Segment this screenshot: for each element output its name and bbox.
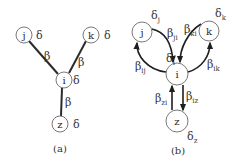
node-j: j <box>16 27 32 43</box>
node-label: i <box>62 75 65 86</box>
node-i: i <box>166 63 188 85</box>
figure-a: j k i z δ δ δ δ β β β (a) <box>16 27 111 154</box>
node-label: i <box>175 69 178 80</box>
node-z: z <box>52 116 68 132</box>
delta-i-label: δ <box>73 74 80 87</box>
beta-ik-label: βik <box>207 58 221 73</box>
node-label: j <box>139 27 143 38</box>
figure-b: j k i z δj δk δi δz βji βij βki βik βzi … <box>132 7 227 156</box>
caption-a: (a) <box>53 143 67 154</box>
node-k: k <box>199 21 219 41</box>
beta-iz-label: βiz <box>186 90 199 105</box>
node-label: j <box>21 30 25 41</box>
beta-k-i-label: β <box>78 56 84 69</box>
node-label: z <box>57 119 62 130</box>
node-z: z <box>166 110 188 132</box>
node-label: z <box>174 116 179 127</box>
node-k: k <box>83 27 99 43</box>
beta-i-z-label: β <box>65 96 71 109</box>
delta-k-label: δ <box>104 29 111 42</box>
node-i: i <box>56 72 72 88</box>
beta-ji-label: βji <box>167 27 179 42</box>
node-label: k <box>206 26 213 37</box>
delta-j-label: δj <box>151 9 160 24</box>
delta-i-label: δi <box>166 52 176 67</box>
delta-z-label: δz <box>187 130 198 145</box>
edge-i-z <box>61 88 62 116</box>
beta-j-i-label: β <box>44 50 50 63</box>
node-label: k <box>88 30 95 41</box>
node-j: j <box>132 22 152 42</box>
diagram-canvas: j k i z δ δ δ δ β β β (a) <box>0 0 237 164</box>
beta-zi-label: βzi <box>155 92 168 107</box>
delta-k-label: δk <box>215 7 227 22</box>
caption-b: (b) <box>171 145 185 156</box>
delta-z-label: δ <box>73 118 80 131</box>
beta-ki-label: βki <box>184 23 198 38</box>
delta-j-label: δ <box>36 29 43 42</box>
